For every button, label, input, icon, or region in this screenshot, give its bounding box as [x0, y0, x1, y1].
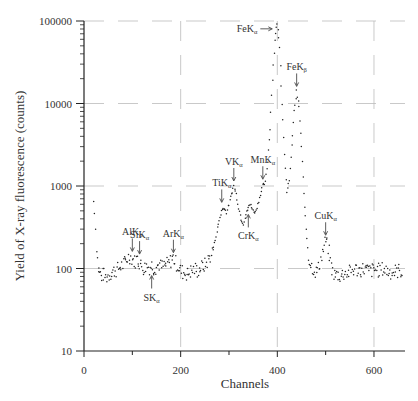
data-point — [115, 276, 117, 278]
data-point — [214, 242, 216, 244]
data-point — [138, 265, 140, 267]
data-point — [103, 279, 105, 281]
data-point — [199, 267, 201, 269]
data-point — [127, 261, 128, 263]
data-point — [400, 276, 402, 278]
data-point — [342, 276, 344, 278]
data-point — [167, 261, 169, 263]
annotation-label: SiKα — [130, 229, 150, 241]
data-point — [225, 210, 227, 212]
data-point — [397, 277, 399, 279]
data-point — [314, 272, 316, 274]
data-point — [98, 267, 100, 269]
data-point — [289, 180, 291, 182]
data-point — [339, 279, 341, 281]
data-point — [350, 266, 352, 268]
data-point — [186, 279, 188, 281]
data-point — [170, 266, 172, 268]
data-point — [111, 272, 113, 274]
data-point — [231, 192, 233, 194]
data-point — [378, 276, 380, 278]
data-point — [114, 275, 116, 277]
data-point — [310, 265, 312, 267]
data-point — [336, 271, 338, 273]
data-point — [145, 271, 147, 273]
annotation-ar-kalpha: ArKα — [163, 228, 185, 253]
data-point — [302, 161, 304, 163]
data-point — [255, 209, 257, 211]
data-point — [318, 262, 320, 264]
data-point — [370, 267, 372, 269]
data-point — [362, 271, 364, 273]
annotation-fe-kbeta: FeKβ — [286, 61, 307, 86]
data-point — [319, 268, 321, 270]
data-point — [187, 268, 189, 270]
data-point — [260, 195, 262, 197]
data-point — [247, 210, 249, 212]
data-point — [171, 259, 173, 261]
data-point — [230, 196, 232, 198]
data-point — [190, 265, 192, 267]
data-point — [300, 133, 302, 135]
data-point — [308, 260, 310, 262]
data-point — [383, 271, 385, 273]
y-tick-label: 100 — [56, 263, 73, 275]
data-point — [234, 189, 236, 191]
data-point — [125, 259, 127, 261]
x-axis-title: Channels — [221, 376, 269, 391]
data-point — [388, 273, 390, 275]
data-point — [325, 241, 327, 243]
data-point — [152, 269, 154, 271]
data-point — [290, 157, 292, 159]
data-point — [229, 199, 231, 201]
data-point — [170, 255, 172, 256]
data-point — [387, 268, 389, 270]
data-point — [393, 272, 395, 274]
data-point — [236, 199, 238, 201]
annotation-label: MnKα — [251, 154, 276, 166]
data-point — [204, 257, 206, 259]
data-point — [323, 245, 325, 247]
data-point — [236, 193, 238, 195]
data-point — [116, 266, 118, 268]
data-point — [353, 274, 355, 276]
data-point — [239, 210, 241, 212]
annotation-cr-kalpha: CrKα — [238, 214, 259, 242]
data-point — [343, 278, 345, 280]
y-axis-title: Yield of X-ray fluorescence (counts) — [12, 91, 27, 282]
annotation-ti-kalpha: TiKα — [212, 177, 232, 202]
data-point — [348, 276, 350, 278]
data-point — [330, 257, 332, 259]
data-point — [217, 231, 219, 233]
data-point — [261, 191, 263, 193]
data-point — [350, 272, 352, 274]
data-point — [206, 267, 208, 269]
annotation-label: VKα — [225, 156, 243, 168]
data-point — [347, 274, 349, 276]
y-tick-label: 10 — [61, 345, 73, 357]
data-point — [287, 187, 289, 189]
data-point — [391, 272, 393, 274]
data-point — [297, 97, 299, 99]
data-point — [286, 179, 288, 181]
data-point — [162, 265, 164, 267]
data-point — [219, 217, 221, 219]
data-point — [280, 85, 282, 87]
data-point — [168, 259, 170, 261]
data-point — [381, 262, 383, 264]
data-point — [217, 226, 219, 228]
annotation-label: CrKα — [238, 230, 259, 242]
data-point — [134, 255, 136, 257]
data-point — [215, 236, 217, 238]
data-point — [141, 266, 143, 268]
data-point — [206, 261, 208, 263]
data-point — [213, 246, 215, 248]
data-point — [287, 183, 289, 185]
data-point — [257, 203, 259, 205]
data-point — [331, 274, 333, 276]
data-point — [380, 269, 382, 271]
data-point — [356, 275, 358, 277]
data-point — [329, 244, 331, 246]
data-point — [142, 270, 144, 272]
data-point — [106, 276, 108, 278]
